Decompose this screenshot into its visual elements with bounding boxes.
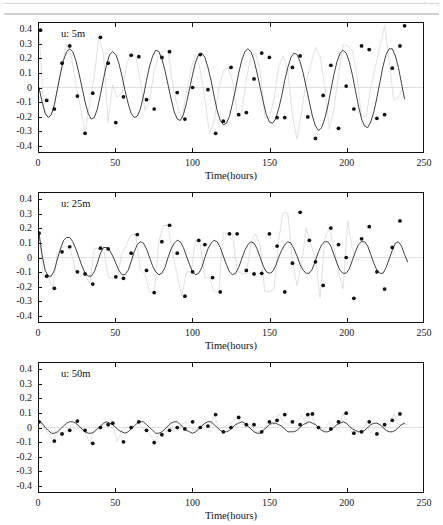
x-axis-tick <box>423 318 424 322</box>
data-point <box>99 35 103 39</box>
data-point <box>175 251 179 255</box>
plot-frame-3: u: 50m <box>38 362 424 493</box>
y-axis-tick-label: 0.4 <box>0 24 32 34</box>
data-point <box>183 117 187 121</box>
x-axis-tick-label: 250 <box>417 157 432 168</box>
data-point <box>403 24 407 28</box>
data-point <box>268 420 272 424</box>
x-axis-tick <box>115 318 116 322</box>
y-axis-tick <box>38 131 42 132</box>
data-point <box>283 290 287 294</box>
data-point <box>111 421 115 425</box>
y-axis-tick-label: -0.4 <box>0 311 32 321</box>
x-axis-tick-top <box>347 193 348 197</box>
data-point <box>152 291 156 295</box>
y-axis-tick <box>38 243 42 244</box>
data-point <box>390 66 394 70</box>
y-axis-tick <box>38 44 42 45</box>
data-point <box>137 55 141 59</box>
x-axis-tick-label: 200 <box>339 157 354 168</box>
x-axis-tick-label: 100 <box>185 497 200 508</box>
data-point <box>237 416 241 420</box>
x-axis-tick-top <box>192 23 193 27</box>
y-axis-tick <box>38 457 42 458</box>
y-axis-tick-label: 0.2 <box>0 393 32 403</box>
data-point <box>398 412 402 416</box>
x-axis-title: Time(hours) <box>38 170 424 182</box>
y-axis-tick <box>38 398 42 399</box>
y-axis-tick <box>38 301 42 302</box>
x-axis-tick-top <box>347 363 348 367</box>
data-point <box>52 439 56 443</box>
x-axis-tick-top <box>38 193 39 197</box>
data-point <box>314 137 318 141</box>
y-axis-tick <box>38 88 42 89</box>
data-point <box>83 428 87 432</box>
x-axis-tick-top <box>115 193 116 197</box>
data-point <box>122 276 126 280</box>
x-axis-tick <box>115 148 116 152</box>
data-point <box>76 94 80 98</box>
data-point <box>198 53 202 57</box>
y-axis-tick-label: -0.2 <box>0 112 32 122</box>
observation-markers <box>39 24 406 140</box>
data-point <box>244 423 248 427</box>
y-axis-tick-label: 0.3 <box>0 379 32 389</box>
data-point <box>314 260 318 264</box>
x-axis-tick-label: 150 <box>262 157 277 168</box>
data-point <box>211 276 215 280</box>
x-axis-tick-top <box>270 193 271 197</box>
data-point <box>283 413 287 417</box>
y-axis-tick-label: 0.1 <box>0 238 32 248</box>
fit-curve <box>39 233 408 276</box>
x-axis-tick-label: 200 <box>339 497 354 508</box>
data-point <box>375 432 379 436</box>
y-axis-tick-label: -0.3 <box>0 466 32 476</box>
data-point <box>375 116 379 120</box>
x-axis-tick-label: 0 <box>36 327 41 338</box>
x-axis-tick-label: 150 <box>262 327 277 338</box>
data-point <box>298 54 302 58</box>
x-axis-tick <box>115 488 116 492</box>
data-point <box>145 98 149 102</box>
y-axis-tick-label: 0.2 <box>0 53 32 63</box>
y-axis-tick-label: 0.3 <box>0 39 32 49</box>
data-point <box>291 66 295 70</box>
data-point <box>214 413 218 417</box>
data-point <box>191 420 195 424</box>
data-point <box>383 287 387 291</box>
y-axis-tick-label: -0.1 <box>0 97 32 107</box>
y-axis-tick <box>38 471 42 472</box>
data-point <box>106 61 110 65</box>
y-axis-tick-label: 0.4 <box>0 364 32 374</box>
page-header: 7 / 2 <box>0 0 443 16</box>
x-axis-tick-label: 200 <box>339 327 354 338</box>
y-axis-tick-label: 0.3 <box>0 209 32 219</box>
data-point <box>337 243 341 247</box>
y-axis-tick <box>38 413 42 414</box>
data-point <box>60 250 64 254</box>
y-axis-tick-label: -0.2 <box>0 452 32 462</box>
data-point <box>52 107 56 111</box>
x-axis-tick-top <box>270 363 271 367</box>
x-axis-tick-label: 0 <box>36 157 41 168</box>
data-point <box>99 426 103 430</box>
data-point <box>175 426 179 430</box>
data-point <box>183 427 187 431</box>
data-point <box>268 232 272 236</box>
x-axis-tick-top <box>115 363 116 367</box>
data-point <box>298 423 302 427</box>
x-axis-tick-top <box>38 363 39 367</box>
data-point <box>244 111 248 115</box>
data-point <box>218 290 222 294</box>
x-axis-tick <box>270 148 271 152</box>
data-point <box>252 77 256 81</box>
x-axis-tick <box>38 148 39 152</box>
x-axis-tick-label: 50 <box>110 497 120 508</box>
x-axis-tick-label: 50 <box>110 327 120 338</box>
data-point <box>175 91 179 95</box>
x-axis-tick-top <box>423 193 424 197</box>
x-axis-tick <box>192 488 193 492</box>
x-axis-tick-label: 0 <box>36 497 41 508</box>
data-point <box>60 61 64 65</box>
